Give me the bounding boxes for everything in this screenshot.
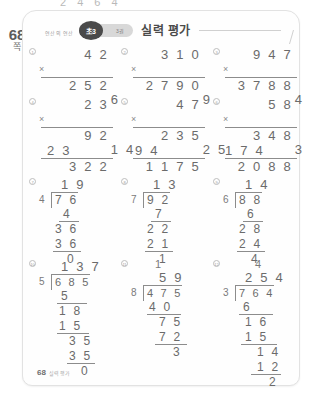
step-value: 4 [63, 207, 72, 222]
division-remainder: 2 [221, 375, 301, 390]
multiplicand: 4 2 [41, 47, 113, 62]
multiplier: 2 5 [203, 142, 228, 157]
problem-number: 11 [121, 260, 128, 267]
problem-number: 9 [213, 178, 220, 185]
dividend: 9 2 [143, 192, 170, 208]
division-step-3: 2 4 [221, 237, 301, 252]
step-value: 1 2 [257, 360, 280, 375]
division-block: 1 3 7 5 6 8 5 5 1 8 1 5 [37, 259, 117, 379]
division-step-5: 3 5 [37, 349, 117, 364]
division-step-5: 1 2 [221, 360, 301, 375]
problem-number: 1 [29, 48, 36, 55]
worksheet-card: 연산의 연산 3권 초3 실력 평가 1 4 2 × 6 2 5 2 2 [22, 10, 300, 386]
quotient: 5 9 [129, 270, 209, 285]
multiply-sign: × [223, 62, 228, 77]
dividend: 6 8 5 [51, 274, 90, 290]
dividend-line: 5 6 8 5 [37, 274, 117, 289]
multiplicand: 2 3 [41, 97, 113, 112]
divisor: 7 [131, 192, 137, 207]
step-value: 2 4 [239, 237, 262, 252]
quotient: 1 3 [129, 177, 209, 192]
multiply-sign: × [131, 62, 136, 77]
divisor: 4 [39, 192, 45, 207]
division-step-4: 3 5 [37, 334, 117, 349]
step-value: 3 6 [55, 222, 78, 237]
dividend: 7 6 [51, 192, 78, 208]
division-step-1: 4 0 [129, 300, 209, 315]
division-remainder: 3 [129, 345, 209, 360]
division-step-3: 7 2 [129, 330, 209, 345]
step-value: 3 5 [69, 349, 92, 364]
multiplier: 3 6 [295, 142, 310, 157]
footer-page-number: 68 [37, 368, 46, 377]
multiplication-block: 9 4 7 × 4 3 7 8 8 [225, 47, 297, 93]
problem-number: 8 [121, 178, 128, 185]
division-block: 1 3 7 9 2 7 2 2 2 1 [129, 177, 209, 267]
problem-number: 3 [213, 48, 220, 55]
dividend: 4 7 5 [143, 285, 182, 301]
divisor: 5 [39, 274, 45, 289]
division-step-1: 6 [221, 300, 301, 315]
worksheet-title: 실력 평가 [141, 21, 191, 38]
step-value: 5 [61, 289, 70, 304]
step-value: 6 [247, 207, 256, 222]
problem-number: 5 [121, 98, 128, 105]
problem-number: 12 [213, 260, 220, 267]
step-value: 1 6 [245, 315, 268, 330]
grade-badge: 초3 [79, 21, 103, 40]
division-block: 1 5 9 8 4 7 5 4 0 7 5 7 2 [129, 259, 209, 360]
step-value: 2 1 [147, 237, 170, 252]
remainder-value: 0 [81, 364, 90, 379]
multiplier: 1 4 [111, 142, 136, 157]
remainder-value: 2 [269, 375, 278, 390]
problem-number: 6 [213, 98, 220, 105]
problem-number: 4 [29, 98, 36, 105]
page-footer: 68실력 평가 [37, 368, 70, 377]
quotient: 2 5 4 [221, 270, 301, 285]
division-step-3: 1 5 [221, 330, 301, 345]
step-value: 7 2 [159, 330, 182, 345]
step-value: 2 8 [239, 222, 262, 237]
division-step-3: 2 1 [129, 237, 209, 252]
dividend: 8 8 [235, 192, 262, 208]
multiplicand: 5 8 [225, 97, 297, 112]
dividend-line: 4 7 6 [37, 192, 117, 207]
divisor: 6 [223, 192, 229, 207]
division-step-2: 1 6 [221, 315, 301, 330]
dividend-line: 3 7 6 4 [221, 285, 301, 300]
dividend-line: 6 8 8 [221, 192, 301, 207]
multiplicand: 4 7 [133, 97, 205, 112]
multiplier-line: × 3 6 [225, 112, 297, 128]
multiply-sign: × [131, 112, 136, 127]
quotient: 1 3 7 [37, 259, 117, 274]
footer-note: 실력 평가 [49, 370, 70, 376]
division-step-2: 2 8 [221, 222, 301, 237]
volume-badge: 3권 [99, 24, 133, 37]
multiplication-block: 4 2 × 6 2 5 2 [41, 47, 113, 93]
problem-grid: 1 4 2 × 6 2 5 2 2 3 1 0 × 9 [23, 47, 301, 369]
multiplier-line: × 9 [133, 62, 205, 78]
step-value: 7 [155, 207, 164, 222]
division-step-1: 7 [129, 207, 209, 222]
header-rule [199, 30, 281, 31]
previous-page-bleed: 2 4 6 4 [60, 0, 180, 8]
multiplicand: 3 1 0 [133, 47, 205, 62]
step-value: 4 0 [149, 300, 172, 315]
dividend: 7 6 4 [235, 285, 274, 301]
multiplication-block: 5 8 × 3 6 3 4 8 1 7 4 2 0 8 8 [225, 97, 297, 174]
multiplier-line: × 1 4 [41, 112, 113, 128]
divisor: 8 [131, 285, 137, 300]
problem-row-4: 10 1 3 7 5 6 8 5 5 1 8 1 5 [23, 259, 301, 369]
division-step-3: 3 6 [37, 237, 117, 252]
multiply-sign: × [39, 112, 44, 127]
multiply-sign: × [223, 112, 228, 127]
multiplier-line: × 4 [225, 62, 297, 78]
subject-label: 연산의 연산 [45, 29, 74, 36]
division-step-4: 1 4 [221, 345, 301, 360]
problem-number: 10 [29, 260, 36, 267]
step-value: 1 5 [245, 330, 268, 345]
division-block: 1 9 4 7 6 4 3 6 3 6 [37, 177, 117, 267]
multiplication-block: 3 1 0 × 9 2 7 9 0 [133, 47, 205, 93]
division-step-1: 5 [37, 289, 117, 304]
divisor: 3 [223, 285, 229, 300]
